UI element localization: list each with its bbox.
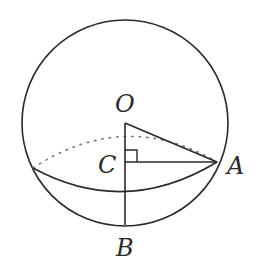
sphere-diagram: O C A B <box>0 0 263 278</box>
label-a: A <box>225 152 244 180</box>
label-b: B <box>115 234 134 262</box>
right-angle-mark <box>125 150 137 162</box>
label-c: C <box>98 151 116 179</box>
segment-oa <box>125 123 217 162</box>
label-o: O <box>115 90 135 118</box>
